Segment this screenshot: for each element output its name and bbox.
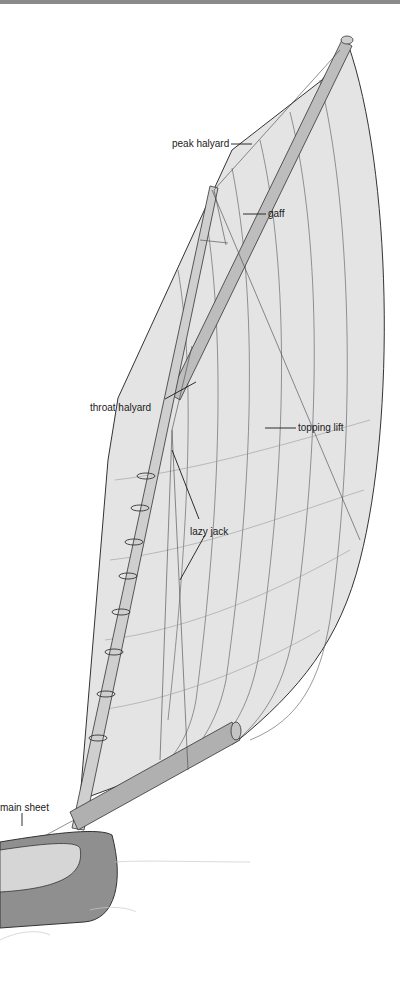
label-main-sheet: main sheet [0, 802, 49, 814]
label-throat-halyard: throat halyard [90, 402, 151, 414]
label-topping-lift: topping lift [298, 422, 344, 434]
label-peak-halyard: peak halyard [172, 138, 229, 150]
label-lazy-jack: lazy jack [190, 526, 228, 538]
label-gaff: gaff [268, 208, 285, 220]
